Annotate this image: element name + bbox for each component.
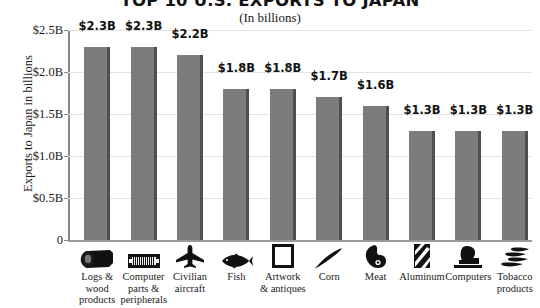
y-tick-label: $2.5B — [1, 23, 63, 38]
corn-icon — [306, 243, 352, 269]
bar — [455, 131, 481, 240]
bar-group: $1.8B — [223, 30, 249, 240]
bar-value-label: $2.3B — [125, 19, 162, 33]
category-4: Fish — [213, 243, 259, 283]
airplane-icon — [167, 243, 213, 269]
y-axis-line — [68, 30, 70, 241]
category-7: Meat — [352, 243, 398, 283]
bar-group: $1.8B — [270, 30, 296, 240]
bar-value-label: $1.8B — [218, 61, 255, 75]
category-label: Tobaccoproducts — [492, 271, 538, 294]
category-8: Aluminum — [399, 243, 445, 283]
bar-value-label: $1.3B — [496, 103, 533, 117]
log-icon — [74, 243, 120, 269]
bar — [270, 89, 296, 240]
y-tick-mark — [64, 30, 68, 31]
category-10: Tobaccoproducts — [492, 243, 538, 294]
category-1: Logs &woodproducts — [74, 243, 120, 306]
bar-group: $2.2B — [177, 30, 203, 240]
bar — [177, 55, 203, 240]
y-tick-mark — [64, 240, 68, 241]
bar-group: $2.3B — [84, 30, 110, 240]
fish-icon — [213, 243, 259, 269]
bar — [409, 131, 435, 240]
bar-value-label: $2.2B — [171, 27, 208, 41]
category-label: Artwork& antiques — [260, 271, 306, 294]
category-label: Civilianaircraft — [167, 271, 213, 294]
computer-monitor-icon — [445, 243, 491, 269]
x-axis-line — [68, 240, 532, 242]
y-tick-label: $2.0B — [1, 65, 63, 80]
bar — [131, 47, 157, 240]
computer-chip-icon — [120, 243, 166, 269]
tobacco-leaf-icon — [492, 243, 538, 269]
category-6: Corn — [306, 243, 352, 283]
chart-title: TOP 10 U.S. EXPORTS TO JAPAN — [0, 0, 540, 10]
bar-group: $1.3B — [502, 30, 528, 240]
y-tick-label: $1.0B — [1, 149, 63, 164]
category-label: Computerparts &peripherals — [120, 271, 166, 306]
category-label: Meat — [352, 271, 398, 283]
category-label: Computers — [445, 271, 491, 283]
category-label: Aluminum — [399, 271, 445, 283]
bar-group: $1.6B — [363, 30, 389, 240]
plot-area: $2.5B$2.0B$1.5B$1.0B$0.5B0 $2.3B$2.3B$2.… — [68, 30, 532, 240]
y-tick-mark — [64, 198, 68, 199]
bar-value-label: $1.8B — [264, 61, 301, 75]
y-tick-label: 0 — [1, 233, 63, 248]
y-tick-label: $1.5B — [1, 107, 63, 122]
bar-value-label: $1.6B — [357, 78, 394, 92]
bar — [363, 106, 389, 240]
meat-icon — [352, 243, 398, 269]
y-tick-label: $0.5B — [1, 191, 63, 206]
picture-frame-icon — [260, 243, 306, 269]
bar-value-label: $1.3B — [403, 103, 440, 117]
bar — [223, 89, 249, 240]
bar-value-label: $1.3B — [450, 103, 487, 117]
bar — [502, 131, 528, 240]
aluminum-can-icon — [399, 243, 445, 269]
bar-chart: TOP 10 U.S. EXPORTS TO JAPAN (In billion… — [0, 0, 540, 308]
category-label: Logs &woodproducts — [74, 271, 120, 306]
bar-group: $2.3B — [131, 30, 157, 240]
bar-value-label: $2.3B — [79, 19, 116, 33]
bar — [84, 47, 110, 240]
y-tick-mark — [64, 72, 68, 73]
y-tick-mark — [64, 156, 68, 157]
category-label: Fish — [213, 271, 259, 283]
category-9: Computers — [445, 243, 491, 283]
category-3: Civilianaircraft — [167, 243, 213, 294]
bar-group: $1.3B — [455, 30, 481, 240]
category-label: Corn — [306, 271, 352, 283]
bar — [316, 97, 342, 240]
bar-group: $1.3B — [409, 30, 435, 240]
bar-value-label: $1.7B — [311, 69, 348, 83]
category-2: Computerparts &peripherals — [120, 243, 166, 306]
bar-group: $1.7B — [316, 30, 342, 240]
y-tick-mark — [64, 114, 68, 115]
category-5: Artwork& antiques — [260, 243, 306, 294]
